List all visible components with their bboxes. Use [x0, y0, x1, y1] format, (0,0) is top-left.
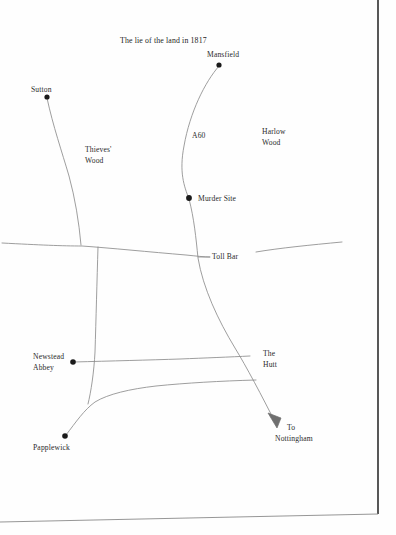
marker-mansfield [216, 62, 221, 67]
label-harlow-wood-line2: Wood [262, 137, 286, 148]
label-the-hutt-line1: The [263, 349, 275, 358]
road-newstead-abbey [74, 356, 250, 362]
label-the-hutt-line2: Hutt [263, 359, 277, 370]
label-thieves-wood-line2: Wood [85, 155, 112, 166]
label-papplewick: Papplewick [33, 442, 70, 453]
marker-sutton [44, 94, 49, 99]
map-drawing [0, 0, 396, 535]
marker-papplewick [62, 433, 68, 439]
label-the-hutt: The Hutt [263, 348, 277, 370]
label-harlow-wood-line1: Harlow [262, 127, 286, 136]
marker-murder-site [186, 195, 192, 201]
road-sutton [47, 98, 81, 245]
label-thieves-wood: Thieves' Wood [85, 144, 112, 166]
map-title: The lie of the land in 1817 [120, 35, 207, 46]
label-harlow-wood: Harlow Wood [262, 126, 286, 148]
label-mansfield: Mansfield [207, 49, 239, 60]
road-toll-bar [2, 243, 210, 257]
map-page: The lie of the land in 1817 Mansfield Su… [0, 0, 396, 535]
label-thieves-wood-line1: Thieves' [85, 145, 112, 154]
road-a60 [182, 66, 276, 424]
page-border-bottom [0, 514, 378, 522]
road-toll-bar-east [256, 242, 342, 252]
marker-newstead-abbey [70, 359, 76, 365]
label-toll-bar: Toll Bar [212, 251, 238, 262]
label-newstead-abbey-line1: Newstead [33, 352, 64, 361]
road-vertical-link [88, 247, 98, 404]
label-to-nottingham-line1: To [287, 423, 295, 432]
label-to-nottingham-line2: Nottingham [275, 433, 313, 444]
label-to-nottingham: To Nottingham [275, 422, 313, 444]
label-newstead-abbey-line2: Abbey [33, 362, 64, 373]
label-newstead-abbey: Newstead Abbey [33, 351, 64, 373]
label-murder-site: Murder Site [198, 193, 236, 204]
label-a60: A60 [192, 130, 206, 141]
road-papplewick [66, 380, 256, 435]
label-sutton: Sutton [31, 84, 52, 95]
